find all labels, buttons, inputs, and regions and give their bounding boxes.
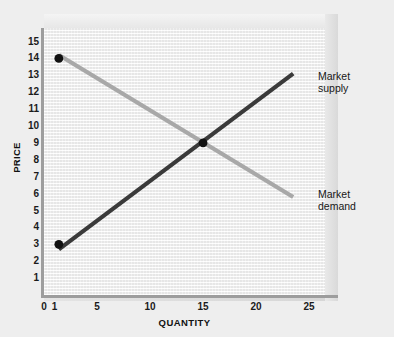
market-supply-label: Marketsupply (318, 71, 350, 94)
supply-demand-chart: 123456789101112131415 01510152025 PRICE … (0, 0, 394, 337)
x-tick-label: 15 (188, 301, 218, 312)
y-tick-label: 12 (13, 87, 39, 97)
plot-area (44, 28, 325, 295)
y-tick-label: 1 (13, 273, 39, 283)
x-axis-line (41, 295, 338, 298)
y-tick-label: 6 (13, 189, 39, 199)
y-tick-label: 11 (13, 104, 39, 114)
market-demand-label: Marketdemand (318, 189, 356, 212)
y-tick-label: 4 (13, 222, 39, 232)
chart-frame-bevel-right (325, 14, 338, 301)
y-tick-label: 5 (13, 206, 39, 216)
y-tick-label: 2 (13, 256, 39, 266)
market-supply-label-line1: Market (318, 70, 350, 82)
x-tick-label: 20 (241, 301, 271, 312)
chart-frame-bevel-top (44, 14, 337, 29)
market-demand-label-line2: demand (318, 200, 356, 212)
y-tick-label: 15 (13, 37, 39, 47)
y-axis-line (41, 28, 44, 296)
y-axis-title: PRICE (11, 128, 22, 188)
market-demand-label-line1: Market (318, 188, 350, 200)
x-axis-title: QUANTITY (44, 317, 325, 328)
y-tick-label: 14 (13, 53, 39, 63)
x-tick-label: 5 (82, 301, 112, 312)
x-tick-label: 25 (294, 301, 324, 312)
y-tick-label: 3 (13, 239, 39, 249)
market-supply-label-line2: supply (318, 82, 348, 94)
x-tick-label: 10 (135, 301, 165, 312)
y-tick-label: 13 (13, 70, 39, 80)
x-tick-label: 1 (40, 301, 70, 312)
